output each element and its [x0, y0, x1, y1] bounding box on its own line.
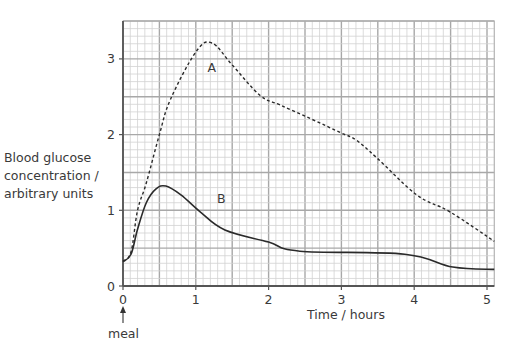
svg-text:0: 0	[119, 292, 127, 307]
series-lines: AB	[123, 42, 494, 269]
svg-text:5: 5	[483, 292, 491, 307]
y-axis-label-line-1: Blood glucose	[4, 149, 114, 167]
grid-paper	[123, 21, 494, 286]
axes	[119, 21, 494, 290]
svg-text:4: 4	[410, 292, 418, 307]
y-axis-label: Blood glucose concentration / arbitrary …	[4, 149, 114, 203]
svg-text:0: 0	[107, 279, 115, 294]
svg-text:1: 1	[107, 203, 115, 218]
svg-text:2: 2	[265, 292, 273, 307]
y-axis-label-line-3: arbitrary units	[4, 185, 114, 203]
svg-text:3: 3	[337, 292, 345, 307]
meal-arrow-icon	[120, 306, 126, 323]
svg-text:3: 3	[107, 51, 115, 66]
series-B	[123, 186, 494, 270]
series-A	[123, 42, 494, 261]
meal-annotation: meal	[108, 326, 139, 341]
x-axis-label: Time / hours	[307, 307, 385, 322]
y-axis-label-line-2: concentration /	[4, 167, 114, 185]
svg-text:1: 1	[192, 292, 200, 307]
series-label-A: A	[208, 60, 217, 75]
svg-text:2: 2	[107, 127, 115, 142]
series-label-B: B	[217, 191, 226, 206]
tick-labels: 0123450123	[107, 51, 491, 307]
